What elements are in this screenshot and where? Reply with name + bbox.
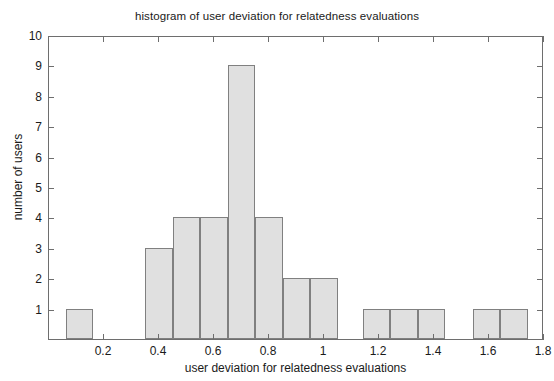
- histogram-bar: [228, 65, 256, 339]
- x-axis-title: user deviation for relatedness evaluatio…: [48, 361, 543, 375]
- x-axis-tick-top: [103, 36, 104, 42]
- histogram-bars: [49, 37, 542, 339]
- x-axis-tick-top: [543, 36, 544, 42]
- x-axis-tick-label: 0.6: [183, 344, 243, 358]
- x-axis-tick-label: 1.8: [513, 344, 554, 358]
- y-axis-tick-right: [537, 249, 543, 250]
- x-axis-tick-label: 1.4: [403, 344, 463, 358]
- histogram-bar: [363, 309, 391, 339]
- y-axis-tick-right: [537, 279, 543, 280]
- x-axis-tick-top: [378, 36, 379, 42]
- y-axis-tick: [48, 188, 54, 189]
- histogram-bar: [200, 217, 228, 339]
- y-axis-tick: [48, 66, 54, 67]
- x-axis-tick-top: [268, 36, 269, 42]
- y-axis-tick: [48, 158, 54, 159]
- x-axis-tick-top: [433, 36, 434, 42]
- x-axis-tick-top: [488, 36, 489, 42]
- x-axis-tick: [543, 334, 544, 340]
- x-axis-tick: [378, 334, 379, 340]
- y-axis-tick-right: [537, 188, 543, 189]
- y-axis-title: number of users: [11, 77, 25, 277]
- y-axis-tick-right: [537, 127, 543, 128]
- x-axis-tick: [323, 334, 324, 340]
- x-axis-tick: [433, 334, 434, 340]
- x-axis-tick: [488, 334, 489, 340]
- x-axis-tick-top: [158, 36, 159, 42]
- histogram-bar: [473, 309, 501, 339]
- x-axis-tick-label: 1.2: [348, 344, 408, 358]
- chart-title: histogram of user deviation for relatedn…: [0, 10, 554, 22]
- x-axis-tick-top: [213, 36, 214, 42]
- y-axis-tick: [48, 97, 54, 98]
- y-axis-tick: [48, 310, 54, 311]
- x-axis-tick: [103, 334, 104, 340]
- histogram-bar: [310, 278, 338, 339]
- y-axis-tick: [48, 218, 54, 219]
- histogram-bar: [390, 309, 418, 339]
- y-axis-tick-right: [537, 218, 543, 219]
- y-axis-tick: [48, 127, 54, 128]
- x-axis-tick-label: 1.6: [458, 344, 518, 358]
- y-axis-tick: [48, 249, 54, 250]
- y-axis-tick: [48, 279, 54, 280]
- y-axis-tick-right: [537, 310, 543, 311]
- histogram-bar: [173, 217, 201, 339]
- histogram-bar: [145, 248, 173, 339]
- x-axis-tick: [213, 334, 214, 340]
- histogram-bar: [66, 309, 94, 339]
- histogram-bar: [283, 278, 311, 339]
- histogram-bar: [418, 309, 446, 339]
- x-axis-tick-label: 1: [293, 344, 353, 358]
- histogram-bar: [500, 309, 528, 339]
- x-axis-tick: [268, 334, 269, 340]
- plot-area: [48, 36, 543, 340]
- y-axis-tick: [48, 36, 54, 37]
- histogram-figure: histogram of user deviation for relatedn…: [0, 0, 554, 381]
- x-axis-tick-top: [323, 36, 324, 42]
- histogram-bar: [255, 217, 283, 339]
- x-axis-tick-label: 0.4: [128, 344, 188, 358]
- y-axis-tick-right: [537, 97, 543, 98]
- y-axis-tick-right: [537, 158, 543, 159]
- x-axis-tick: [158, 334, 159, 340]
- y-axis-tick-right: [537, 66, 543, 67]
- x-axis-tick-label: 0.8: [238, 344, 298, 358]
- x-axis-tick-label: 0.2: [73, 344, 133, 358]
